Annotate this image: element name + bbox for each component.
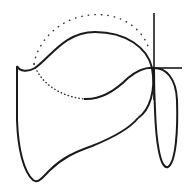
dotted-arc-lower [34, 64, 84, 99]
s-curve [84, 68, 154, 99]
right-loop [154, 68, 177, 167]
diagram-svg [0, 0, 191, 194]
main-closed-curve [17, 66, 138, 181]
dotted-arc [34, 15, 148, 64]
diagram-canvas: Curve loop sketch with crosshair [0, 0, 191, 194]
